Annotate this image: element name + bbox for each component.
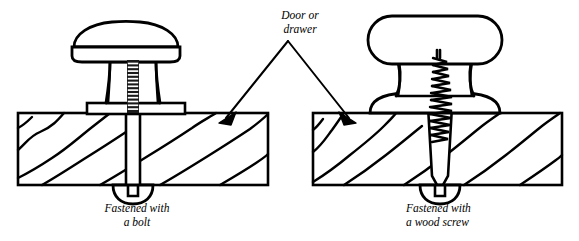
left-knob-cap-dome (74, 21, 178, 47)
bolt-thread-ladder (127, 60, 139, 113)
bolt-thread-rungs (128, 64, 138, 110)
door-or-drawer-label: Door or drawer (262, 8, 338, 36)
left-knob (72, 21, 180, 103)
right-assembly-wood-screw (313, 16, 562, 204)
left-assembly-caption: Fastened with a bolt (78, 201, 196, 229)
right-assembly-caption: Fastened with a wood screw (406, 201, 536, 229)
left-knob-cap-rim (72, 47, 180, 62)
knob-fastening-diagram: Door or drawer Fastened with a bolt Fast… (0, 0, 579, 241)
right-knob-cap (368, 16, 502, 64)
callout-arrow-left-line (226, 41, 288, 118)
callout-arrow-right-line (288, 41, 349, 118)
bolt-shaft (126, 103, 140, 187)
